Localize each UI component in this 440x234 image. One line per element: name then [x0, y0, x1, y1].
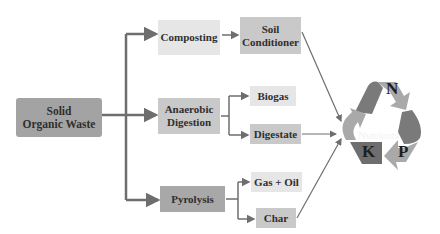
recycle-icon — [0, 0, 440, 234]
nutrient-p-label: P — [398, 142, 408, 162]
nutrient-k-label: K — [362, 142, 375, 162]
nutrient-n-label: N — [386, 79, 398, 99]
nutrients-label: Nutrients — [358, 129, 399, 141]
